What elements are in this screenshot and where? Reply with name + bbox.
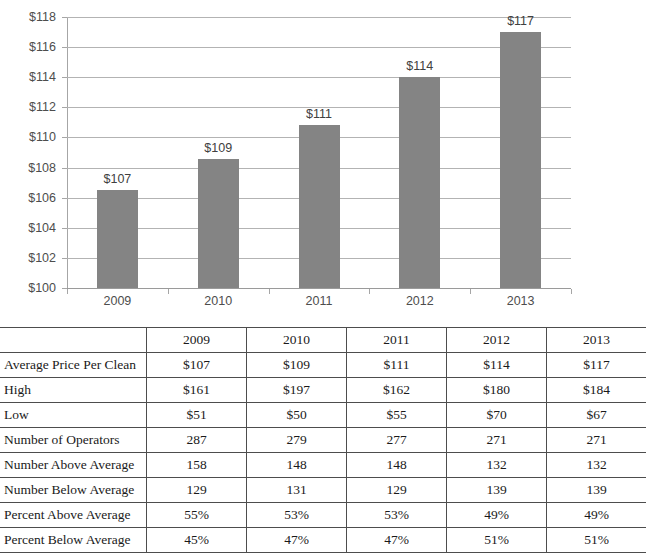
table-cell: 271 [547,428,646,453]
gridline [67,288,571,289]
table-cell: $162 [347,378,447,403]
bar [500,32,541,288]
table-cell: 49% [547,503,646,528]
bar [399,77,440,288]
bar-data-label: $107 [77,173,157,186]
category-axis-tick-label: 2013 [481,295,561,308]
bar-data-label: $111 [279,108,359,121]
table-cell: $184 [547,378,646,403]
table-body: Average Price Per Clean$107$109$111$114$… [0,353,646,553]
table-row: High$161$197$162$180$184 [0,378,646,403]
table-cell: 271 [447,428,547,453]
table-row-header: Number Below Average [0,478,147,503]
table-header-row: 20092010201120122013 [0,328,646,353]
category-axis-tick-label: 2009 [77,295,157,308]
gridline [67,47,571,48]
bar-data-label: $114 [380,60,460,73]
table-column-header: 2009 [147,328,247,353]
table-cell: 129 [347,478,447,503]
category-axis-tick-mark [67,289,68,294]
table-cell: $114 [447,353,547,378]
data-table-container: 20092010201120122013 Average Price Per C… [0,327,594,553]
table-row-header: Average Price Per Clean [0,353,147,378]
table-cell: 139 [447,478,547,503]
table-cell: 132 [447,453,547,478]
bar [198,159,239,288]
table-cell: 53% [247,503,347,528]
table-cell: 47% [247,528,347,553]
table-cell: 148 [247,453,347,478]
table-cell: 158 [147,453,247,478]
table-column-header: 2013 [547,328,646,353]
table-cell: 51% [547,528,646,553]
table-row-header: Percent Below Average [0,528,147,553]
bar-data-label: $109 [178,142,258,155]
bar [97,190,138,288]
value-axis-tick-label: $108 [28,162,56,175]
data-table: 20092010201120122013 Average Price Per C… [0,327,646,553]
value-axis-tick-label: $112 [29,101,56,114]
category-axis-tick-label: 2011 [279,295,359,308]
category-axis-tick-mark [470,289,471,294]
value-axis-tick-label: $116 [29,41,56,54]
bar [299,125,340,288]
table-row: Number Below Average129131129139139 [0,478,646,503]
plot-area [67,17,571,288]
table-column-header: 2010 [247,328,347,353]
category-axis-tick-label: 2012 [380,295,460,308]
table-cell: $180 [447,378,547,403]
value-axis-tick-label: $100 [28,282,56,295]
table-row: Number Above Average158148148132132 [0,453,646,478]
table-cell: 139 [547,478,646,503]
category-axis-tick-label: 2010 [178,295,258,308]
table-row-header: Number Above Average [0,453,147,478]
category-axis-tick-mark [571,289,572,294]
table-row: Percent Below Average45%47%47%51%51% [0,528,646,553]
table-cell: $117 [547,353,646,378]
value-axis-tick-label: $102 [28,252,56,265]
table-corner-cell [0,328,147,353]
table-cell: $111 [347,353,447,378]
table-row: Percent Above Average55%53%53%49%49% [0,503,646,528]
gridline [67,77,571,78]
table-row: Number of Operators287279277271271 [0,428,646,453]
table-cell: 47% [347,528,447,553]
table-cell: 132 [547,453,646,478]
table-cell: $50 [247,403,347,428]
value-axis-tick-label: $114 [29,71,56,84]
table-cell: $161 [147,378,247,403]
table-cell: $51 [147,403,247,428]
table-cell: 51% [447,528,547,553]
category-axis-tick-mark [369,289,370,294]
bar-chart-figure: $100$102$104$106$108$110$112$114$116$118… [0,0,594,318]
table-cell: 49% [447,503,547,528]
value-axis-tick-label: $106 [28,192,56,205]
table-row-header: Percent Above Average [0,503,147,528]
category-axis-tick-mark [269,289,270,294]
table-cell: $109 [247,353,347,378]
table-cell: 277 [347,428,447,453]
table-row-header: Number of Operators [0,428,147,453]
table-cell: 287 [147,428,247,453]
table-row: Low$51$50$55$70$67 [0,403,646,428]
table-cell: 131 [247,478,347,503]
table-row-header: High [0,378,147,403]
value-axis-tick-label: $118 [29,11,56,24]
table-header: 20092010201120122013 [0,328,646,353]
value-axis-tick-label: $110 [29,131,56,144]
category-axis-tick-mark [168,289,169,294]
table-cell: $55 [347,403,447,428]
bar-data-label: $117 [481,15,561,28]
table-column-header: 2011 [347,328,447,353]
table-cell: 55% [147,503,247,528]
table-cell: 279 [247,428,347,453]
table-cell: $67 [547,403,646,428]
table-row-header: Low [0,403,147,428]
table-cell: 53% [347,503,447,528]
table-row: Average Price Per Clean$107$109$111$114$… [0,353,646,378]
table-cell: $107 [147,353,247,378]
table-cell: 45% [147,528,247,553]
table-column-header: 2012 [447,328,547,353]
table-cell: $197 [247,378,347,403]
table-cell: $70 [447,403,547,428]
